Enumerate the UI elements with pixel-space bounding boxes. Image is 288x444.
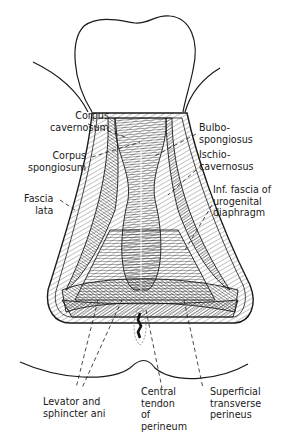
label-superficial-transverse-perineus: Superficial transverse perineus [210,386,261,421]
label-ischiocavernosus: Ischio- cavernosus [199,149,254,172]
label-fascia-lata: Fascia lata [24,193,53,216]
label-inf-fascia: Inf. fascia of urogenital diaphragm [213,184,271,219]
perineum-illustration [0,0,288,444]
body-outline [33,16,220,112]
label-bulbospongiosus: Bulbo- spongiosus [199,122,253,145]
label-corpus-spongiosum: Corpus spongiosum [28,150,86,173]
label-levator-sphincter-ani: Levator and sphincter ani [43,396,105,419]
label-corpus-cavernosum: Corpus cavernosum [50,110,109,133]
label-central-tendon: Central tendon of perineum [141,386,187,432]
buttocks-outline [20,361,248,379]
